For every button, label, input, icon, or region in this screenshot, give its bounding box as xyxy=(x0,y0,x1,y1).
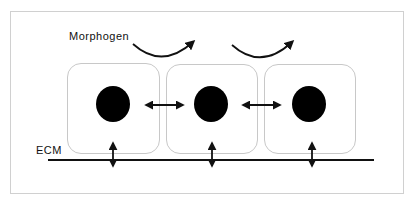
nucleus-cell-3 xyxy=(292,86,326,122)
nucleus-cell-2 xyxy=(194,86,228,122)
morphogen-arrow-2-icon xyxy=(232,42,292,57)
nucleus-cell-1 xyxy=(96,86,130,122)
morphogen-arrow-1-icon xyxy=(133,42,193,57)
